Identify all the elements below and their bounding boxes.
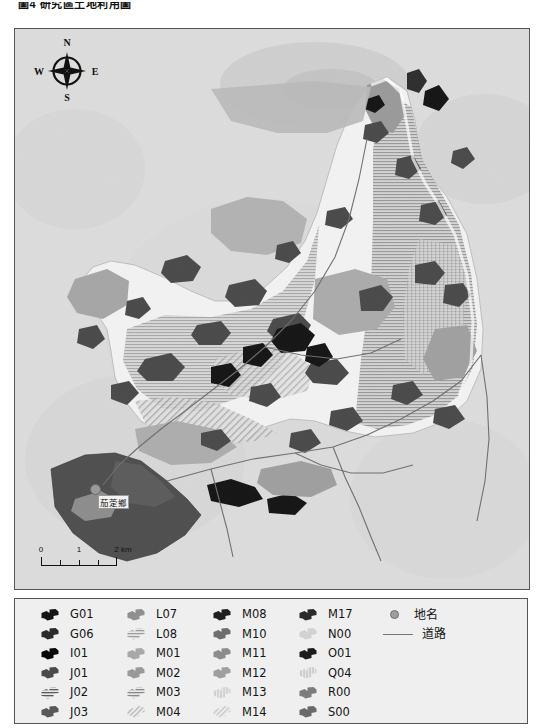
map-frame[interactable]: N E S W 茄萣鄉 0 1 2 km xyxy=(14,28,530,590)
legend-label: M08 xyxy=(242,609,267,621)
road-line-icon xyxy=(383,627,413,641)
legend-item-m17[interactable]: M17 xyxy=(297,605,383,625)
place-marker-icon[interactable] xyxy=(90,484,101,495)
legend-swatch xyxy=(297,666,319,680)
legend-swatch xyxy=(39,627,61,641)
legend-label: S00 xyxy=(328,707,350,719)
legend-item-r00[interactable]: R00 xyxy=(297,683,383,703)
legend-item-l07[interactable]: L07 xyxy=(125,605,211,625)
legend-label: M17 xyxy=(328,609,353,621)
legend-item-i01[interactable]: I01 xyxy=(39,644,125,664)
legend-swatch xyxy=(297,686,319,700)
legend-item-g06[interactable]: G06 xyxy=(39,625,125,645)
legend-item-m11[interactable]: M11 xyxy=(211,644,297,664)
legend-label: M04 xyxy=(156,707,181,719)
legend-swatch xyxy=(211,666,233,680)
legend-label: 地名 xyxy=(414,609,438,621)
legend-swatch xyxy=(125,647,147,661)
scale-bar-graphic xyxy=(41,557,117,566)
legend-label: R00 xyxy=(328,687,351,699)
legend-item-m08[interactable]: M08 xyxy=(211,605,297,625)
legend-item-m13[interactable]: M13 xyxy=(211,683,297,703)
legend-swatch xyxy=(125,705,147,719)
compass-rose-icon: N E S W xyxy=(33,35,101,103)
legend-item-l08[interactable]: L08 xyxy=(125,625,211,645)
legend-item-q04[interactable]: Q04 xyxy=(297,664,383,684)
legend-label: M01 xyxy=(156,648,181,660)
scale-tick-0: 0 xyxy=(39,545,43,554)
legend-swatch xyxy=(125,608,147,622)
legend-column-4: M17 N00 O01 Q04 R00 S00 xyxy=(297,605,383,723)
legend-label: M14 xyxy=(242,707,267,719)
legend-item-m10[interactable]: M10 xyxy=(211,625,297,645)
legend-swatch xyxy=(211,627,233,641)
map-legend: G01 G06 I01 J01 J02 J03 L07 L08 M01 M02 xyxy=(14,598,528,724)
legend-column-symbols: 地名道路 xyxy=(383,605,533,723)
legend-item-m02[interactable]: M02 xyxy=(125,664,211,684)
page-title: 圖4 研究區土地利用圖 xyxy=(18,0,132,11)
legend-swatch xyxy=(211,705,233,719)
scale-tick-2: 2 km xyxy=(114,545,131,554)
legend-swatch xyxy=(39,705,61,719)
scale-tick-1: 1 xyxy=(77,545,81,554)
legend-symbol-road[interactable]: 道路 xyxy=(383,625,533,645)
compass-east-label: E xyxy=(92,66,99,77)
legend-item-n00[interactable]: N00 xyxy=(297,625,383,645)
legend-label: L08 xyxy=(156,629,177,641)
legend-swatch xyxy=(211,647,233,661)
legend-label: M02 xyxy=(156,668,181,680)
legend-swatch xyxy=(39,647,61,661)
legend-label: M13 xyxy=(242,687,267,699)
legend-item-j03[interactable]: J03 xyxy=(39,703,125,723)
map-canvas[interactable] xyxy=(15,29,529,589)
legend-swatch xyxy=(39,686,61,700)
legend-swatch xyxy=(39,666,61,680)
legend-label: G01 xyxy=(70,609,94,621)
legend-symbol-place-name[interactable]: 地名 xyxy=(383,605,533,625)
legend-swatch xyxy=(297,627,319,641)
legend-column-3: M08 M10 M11 M12 M13 M14 xyxy=(211,605,297,723)
legend-label: M12 xyxy=(242,668,267,680)
legend-label: J01 xyxy=(70,668,88,680)
scale-bar: 0 1 2 km xyxy=(37,545,149,575)
compass-south-label: S xyxy=(64,92,70,103)
legend-label: J03 xyxy=(70,707,88,719)
legend-swatch xyxy=(125,666,147,680)
legend-label: Q04 xyxy=(328,668,352,680)
legend-swatch xyxy=(211,686,233,700)
legend-label: O01 xyxy=(328,648,352,660)
legend-swatch xyxy=(125,627,147,641)
legend-label: I01 xyxy=(70,648,88,660)
place-name-label: 茄萣鄉 xyxy=(98,495,129,509)
legend-item-j02[interactable]: J02 xyxy=(39,683,125,703)
legend-item-j01[interactable]: J01 xyxy=(39,664,125,684)
legend-column-1: G01 G06 I01 J01 J02 J03 xyxy=(39,605,125,723)
legend-item-m14[interactable]: M14 xyxy=(211,703,297,723)
legend-item-s00[interactable]: S00 xyxy=(297,703,383,723)
place-dot-icon xyxy=(383,608,405,622)
legend-swatch xyxy=(39,608,61,622)
legend-swatch xyxy=(297,647,319,661)
legend-label: N00 xyxy=(328,629,351,641)
legend-item-g01[interactable]: G01 xyxy=(39,605,125,625)
legend-label: M03 xyxy=(156,687,181,699)
legend-swatch xyxy=(211,608,233,622)
legend-label: M10 xyxy=(242,629,267,641)
compass-west-label: W xyxy=(34,66,44,77)
legend-swatch xyxy=(297,705,319,719)
legend-swatch xyxy=(125,686,147,700)
legend-item-m03[interactable]: M03 xyxy=(125,683,211,703)
legend-item-m12[interactable]: M12 xyxy=(211,664,297,684)
legend-item-o01[interactable]: O01 xyxy=(297,644,383,664)
legend-label: L07 xyxy=(156,609,177,621)
legend-label: G06 xyxy=(70,629,94,641)
legend-swatch xyxy=(297,608,319,622)
legend-item-m04[interactable]: M04 xyxy=(125,703,211,723)
legend-label: M11 xyxy=(242,648,267,660)
legend-column-2: L07 L08 M01 M02 M03 M04 xyxy=(125,605,211,723)
compass-north-label: N xyxy=(63,37,71,48)
legend-label: J02 xyxy=(70,687,88,699)
legend-label: 道路 xyxy=(422,628,446,640)
legend-item-m01[interactable]: M01 xyxy=(125,644,211,664)
